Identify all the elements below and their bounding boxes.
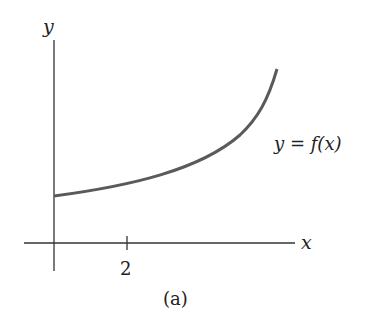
curve-f — [54, 69, 277, 196]
x-axis-label: x — [301, 231, 312, 253]
graph: y x 2 y = f(x) (a) — [0, 0, 377, 331]
figure: y x 2 y = f(x) (a) — [0, 0, 377, 331]
curve-label: y = f(x) — [273, 133, 342, 154]
x-tick-label: 2 — [120, 258, 131, 279]
caption: (a) — [163, 288, 188, 309]
y-axis-label: y — [42, 15, 54, 37]
